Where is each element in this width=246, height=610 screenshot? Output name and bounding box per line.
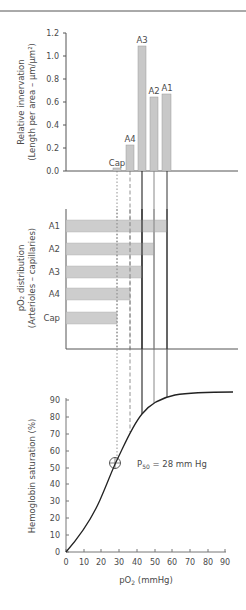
dissociation-ytick-label: 20: [50, 514, 60, 523]
bar-label-cap: Cap: [109, 158, 126, 168]
dissociation-xlabel: pO2 (mmHg): [119, 575, 173, 586]
dissociation-ytick-label: 10: [50, 531, 60, 540]
innervation-ytick-label: 0.2: [46, 144, 59, 153]
dissociation-xtick-label: 90: [220, 558, 230, 567]
dissociation-ytick-label: 0: [55, 548, 60, 557]
dissociation-xtick-label: 30: [114, 558, 124, 567]
dissociation-curve: [66, 392, 233, 552]
bar-a1: [162, 94, 171, 171]
dissociation-xtick-label: 80: [203, 558, 213, 567]
dissociation-ylabel: Hemoglobin saturation (%): [27, 419, 37, 534]
bar-a3: [138, 46, 146, 171]
dissociation-ytick-label: 50: [50, 464, 60, 473]
figure-container: 0.0 0.2 0.4 0.6 0.8 1.0 1.2 Relative inn…: [0, 0, 246, 610]
innervation-ytick-label: 1.0: [46, 52, 59, 61]
hbar-a2: [66, 243, 154, 255]
hbar-a3: [66, 266, 142, 278]
bar-label-a4: A4: [124, 134, 135, 144]
innervation-ytick-label: 0.6: [46, 98, 59, 107]
dissociation-xtick-label: 50: [150, 558, 160, 567]
hbar-label-a3: A3: [49, 267, 60, 277]
hbar-label-cap: Cap: [43, 313, 60, 323]
dissociation-xtick-label: 0: [63, 558, 68, 567]
dissociation-ytick-label: 60: [50, 447, 60, 456]
bar-a4: [126, 145, 134, 171]
innervation-panel: 0.0 0.2 0.4 0.6 0.8 1.0 1.2 Relative inn…: [16, 29, 238, 176]
po2-dist-ylabel-line2: (Arterioles – capillaries): [27, 228, 37, 328]
bar-cap: [113, 168, 121, 171]
innervation-ylabel-line2: (Length per area – μm/μm²): [27, 43, 37, 161]
bar-label-a1: A1: [161, 83, 172, 93]
dissociation-ytick-label: 70: [50, 430, 60, 439]
p50-annotation: P50 = 28 mm Hg: [137, 459, 207, 470]
innervation-ytick-label: 0.4: [46, 121, 59, 130]
p50-marker-icon: [110, 458, 121, 469]
dissociation-ytick-label: 40: [50, 480, 60, 489]
dissociation-ytick-label: 90: [50, 396, 60, 405]
bar-a2: [150, 97, 158, 171]
dissociation-xtick-label: 20: [96, 558, 106, 567]
dissociation-ytick-label: 80: [50, 413, 60, 422]
hbar-label-a4: A4: [49, 289, 60, 299]
po2-dist-ylabel-line1: pO₂ distribution: [16, 245, 26, 312]
dissociation-xtick-label: 40: [132, 558, 142, 567]
bar-label-a3: A3: [136, 35, 147, 45]
hbar-a1: [66, 220, 167, 232]
po2-distribution-panel: A1 A2 A3 A4 Cap pO₂ distribution (Arteri…: [16, 209, 238, 349]
hbar-label-a2: A2: [49, 244, 60, 254]
hbar-label-a1: A1: [49, 221, 60, 231]
dissociation-xtick-label: 60: [167, 558, 177, 567]
bar-label-a2: A2: [148, 86, 159, 96]
dissociation-ytick-label: 30: [50, 497, 60, 506]
figure-svg: 0.0 0.2 0.4 0.6 0.8 1.0 1.2 Relative inn…: [0, 0, 246, 610]
innervation-ytick-label: 0.8: [46, 75, 59, 84]
innervation-ytick-label: 0.0: [46, 167, 59, 176]
dissociation-xtick-label: 70: [185, 558, 195, 567]
innervation-ytick-label: 1.2: [46, 29, 59, 38]
innervation-y-ticks: 0.0 0.2 0.4 0.6 0.8 1.0 1.2: [46, 29, 66, 176]
innervation-ylabel-line1: Relative innervation: [16, 59, 26, 144]
hbar-cap: [66, 312, 117, 324]
dissociation-xtick-label: 10: [79, 558, 89, 567]
hbar-a4: [66, 288, 130, 300]
innervation-bars: [113, 46, 171, 171]
